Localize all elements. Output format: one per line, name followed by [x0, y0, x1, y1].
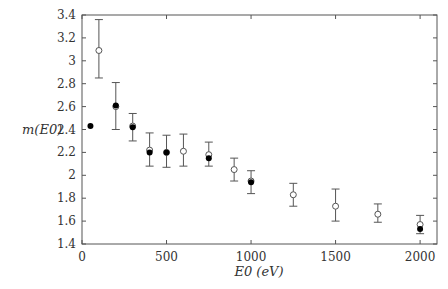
chart: 0500100015002000 1.41.61.822.22.42.62.83… — [0, 0, 448, 289]
x-tick-label: 1000 — [236, 250, 267, 264]
y-tick-label: 3.4 — [57, 8, 76, 22]
data-point-filled — [130, 124, 136, 130]
y-tick-label: 2.6 — [57, 100, 76, 114]
data-point-open — [96, 47, 102, 53]
data-point-filled — [417, 226, 423, 232]
y-tick-label: 1.6 — [57, 214, 76, 228]
data-marks — [87, 20, 424, 234]
data-point-filled — [248, 179, 254, 185]
plot-frame — [82, 15, 437, 244]
data-point-filled — [113, 102, 119, 108]
x-axis-label: E0 (eV) — [233, 264, 283, 279]
data-point-open — [375, 211, 381, 217]
data-point-open — [333, 203, 339, 209]
x-tick-label: 1500 — [320, 250, 351, 264]
x-axis: 0500100015002000 — [78, 15, 435, 264]
y-tick-label: 3.2 — [57, 31, 76, 45]
y-tick-label: 1.8 — [57, 191, 76, 205]
x-tick-label: 2000 — [405, 250, 436, 264]
data-point-open — [231, 167, 237, 173]
data-point-filled — [147, 149, 153, 155]
y-axis-label: m(E0) — [22, 122, 62, 137]
data-point-filled — [206, 155, 212, 161]
y-tick-label: 1.4 — [57, 237, 76, 251]
y-tick-label: 3 — [68, 54, 76, 68]
data-point-filled — [87, 123, 93, 129]
x-tick-label: 500 — [155, 250, 178, 264]
y-tick-label: 2.8 — [57, 77, 76, 91]
data-point-open — [180, 148, 186, 154]
data-point-open — [290, 192, 296, 198]
x-tick-label: 0 — [78, 250, 86, 264]
data-point-filled — [164, 149, 170, 155]
y-tick-label: 2 — [68, 168, 76, 182]
y-tick-label: 2.2 — [57, 145, 76, 159]
